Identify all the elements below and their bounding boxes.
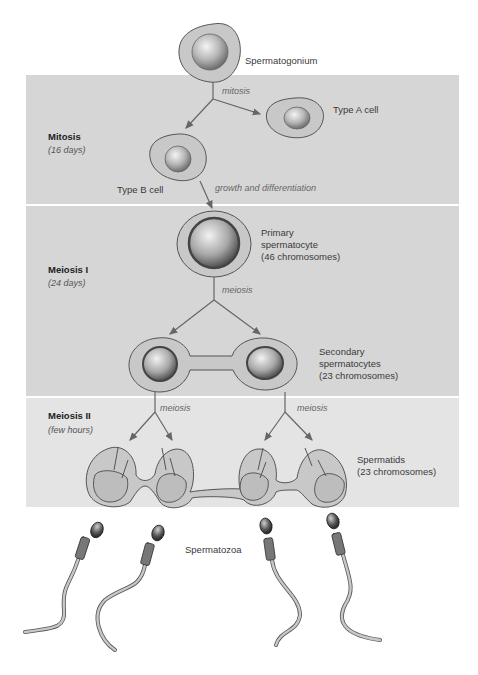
label-primary-spermatocyte: Primary spermatocyte (46 chromosomes) [261,227,340,263]
label-type-a-cell: Type A cell [333,104,378,116]
spermatozoa [25,512,380,650]
phase-duration-meiosis-2: (few hours) [48,425,93,435]
process-meiosis-1: meiosis [222,285,253,295]
label-secondary-spermatocytes: Secondary spermatocytes (23 chromosomes) [319,346,398,382]
primary-spermatocyte-cell [177,211,251,277]
spermatids-cells [86,447,346,507]
sperm-2 [98,524,167,650]
phase-title-meiosis-2: Meiosis II [48,410,91,421]
phase-title-meiosis-1: Meiosis I [48,264,88,275]
process-meiosis-2-right: meiosis [297,403,328,413]
type-b-cell [150,134,206,181]
sperm-3 [258,517,300,645]
label-type-b-cell: Type B cell [117,184,163,196]
phase-duration-meiosis-1: (24 days) [48,278,86,288]
secondary-spermatocytes-cells [129,338,297,392]
phase-duration-mitosis: (16 days) [48,145,86,155]
process-growth-differentiation: growth and differentiation [215,183,316,193]
type-a-cell [266,98,323,138]
label-spermatids: Spermatids (23 chromosomes) [357,454,436,478]
sperm-4 [325,512,380,640]
process-meiosis-2-left: meiosis [160,403,191,413]
label-spermatozoa: Spermatozoa [185,544,242,556]
process-mitosis: mitosis [222,86,250,96]
phase-title-mitosis: Mitosis [48,131,81,142]
label-spermatogonium: Spermatogonium [245,55,317,67]
sperm-1 [25,520,106,632]
spermatogonium-cell [179,23,240,82]
diagram-art [0,0,478,675]
